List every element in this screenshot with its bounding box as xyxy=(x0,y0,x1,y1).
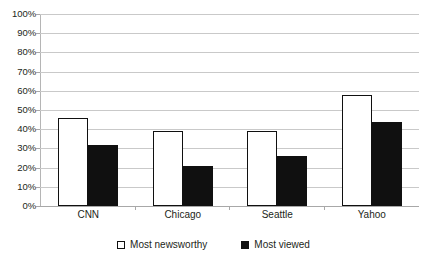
bar-cnn-most-viewed[interactable] xyxy=(88,145,118,206)
y-tick-mark xyxy=(36,72,40,73)
legend-item-most-newsworthy[interactable]: Most newsworthy xyxy=(117,240,207,250)
y-tick-mark xyxy=(36,129,40,130)
bar-group xyxy=(41,14,136,206)
y-tick-label: 90% xyxy=(17,28,36,38)
legend-swatch-icon xyxy=(117,241,125,249)
x-tick-label-seattle: Seattle xyxy=(230,210,325,220)
y-tick-label: 0% xyxy=(22,201,36,211)
bar-group xyxy=(325,14,420,206)
bar-cnn-most-newsworthy[interactable] xyxy=(58,118,88,206)
y-tick-mark xyxy=(36,206,40,207)
y-axis-tick-labels: 100%90%80%70%60%50%40%30%20%10%0% xyxy=(0,14,36,206)
y-tick-mark xyxy=(36,33,40,34)
bar-group xyxy=(136,14,231,206)
x-tick-label-chicago: Chicago xyxy=(136,210,231,220)
y-tick-label: 10% xyxy=(17,182,36,192)
bar-groups xyxy=(41,14,419,206)
x-axis-tick-labels: CNNChicagoSeattleYahoo xyxy=(41,210,419,220)
y-tick-label: 40% xyxy=(17,124,36,134)
y-tick-mark xyxy=(36,14,40,15)
x-tick-label-yahoo: Yahoo xyxy=(325,210,420,220)
plot-area xyxy=(40,14,419,206)
y-tick-label: 60% xyxy=(17,86,36,96)
y-tick-label: 100% xyxy=(12,9,36,19)
bar-chart: 100%90%80%70%60%50%40%30%20%10%0% CNNChi… xyxy=(0,0,427,265)
bar-yahoo-most-newsworthy[interactable] xyxy=(342,95,372,206)
y-tick-label: 50% xyxy=(17,105,36,115)
bar-yahoo-most-viewed[interactable] xyxy=(372,122,402,206)
y-tick-label: 80% xyxy=(17,48,36,58)
bar-group xyxy=(230,14,325,206)
y-tick-mark xyxy=(36,187,40,188)
y-tick-mark xyxy=(36,148,40,149)
y-tick-mark xyxy=(36,91,40,92)
bar-seattle-most-viewed[interactable] xyxy=(277,156,307,206)
legend-label: Most newsworthy xyxy=(130,240,207,250)
y-tick-mark xyxy=(36,52,40,53)
plot-wrapper: 100%90%80%70%60%50%40%30%20%10%0% CNNChi… xyxy=(0,0,427,232)
y-tick-label: 30% xyxy=(17,144,36,154)
y-tick-mark xyxy=(36,110,40,111)
chart-legend: Most newsworthyMost viewed xyxy=(0,240,427,250)
y-tick-label: 20% xyxy=(17,163,36,173)
bar-chicago-most-viewed[interactable] xyxy=(183,166,213,206)
legend-swatch-icon xyxy=(241,241,249,249)
x-tick-label-cnn: CNN xyxy=(41,210,136,220)
legend-item-most-viewed[interactable]: Most viewed xyxy=(241,240,310,250)
legend-label: Most viewed xyxy=(254,240,310,250)
y-tick-mark xyxy=(36,168,40,169)
bar-seattle-most-newsworthy[interactable] xyxy=(247,131,277,206)
y-tick-label: 70% xyxy=(17,67,36,77)
bar-chicago-most-newsworthy[interactable] xyxy=(153,131,183,206)
